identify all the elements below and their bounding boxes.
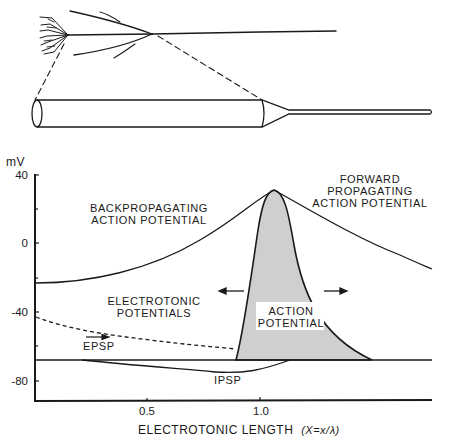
ap-label-1: ACTION bbox=[268, 305, 313, 317]
arrow-left-icon bbox=[219, 288, 244, 294]
backprop-label-1: BACKPROPAGATING bbox=[90, 202, 208, 214]
cable-model bbox=[32, 100, 432, 127]
y-tick-neg80: -80 bbox=[11, 375, 28, 387]
forward-label-2: PROPAGATING bbox=[327, 185, 413, 197]
forward-label-1: FORWARD bbox=[340, 173, 400, 185]
ipsp-curve bbox=[82, 360, 290, 373]
x-axis-title: ELECTROTONIC LENGTH (X=x/λ) bbox=[138, 423, 340, 437]
forward-label-3: ACTION POTENTIAL bbox=[312, 197, 427, 209]
x-tick-1-0: 1.0 bbox=[253, 405, 269, 417]
y-tick-neg40: -40 bbox=[11, 306, 28, 318]
y-unit-label: mV bbox=[6, 155, 25, 169]
epsp-curve bbox=[36, 317, 236, 349]
action-potential-area bbox=[236, 190, 372, 360]
figure-canvas: mV 40 0 -40 -80 0.5 1.0 ELECTROTONIC LEN… bbox=[0, 0, 452, 443]
x-axis bbox=[34, 400, 432, 401]
x-tick-0-5: 0.5 bbox=[139, 405, 155, 417]
arrow-right-icon bbox=[324, 288, 347, 294]
electrotonic-label-1: ELECTROTONIC bbox=[107, 295, 200, 307]
electrotonic-label-2: POTENTIALS bbox=[117, 307, 191, 319]
y-tick-40: 40 bbox=[15, 169, 28, 181]
epsp-label: EPSP bbox=[83, 340, 115, 352]
neuron-drawing bbox=[35, 11, 336, 100]
epsp-arrow-icon bbox=[86, 335, 109, 340]
ap-label-2: POTENTIAL bbox=[258, 317, 325, 329]
plot: mV 40 0 -40 -80 0.5 1.0 ELECTROTONIC LEN… bbox=[6, 155, 432, 437]
y-tick-0: 0 bbox=[22, 237, 28, 249]
ipsp-label: IPSP bbox=[214, 374, 241, 386]
backprop-label-2: ACTION POTENTIAL bbox=[91, 214, 206, 226]
